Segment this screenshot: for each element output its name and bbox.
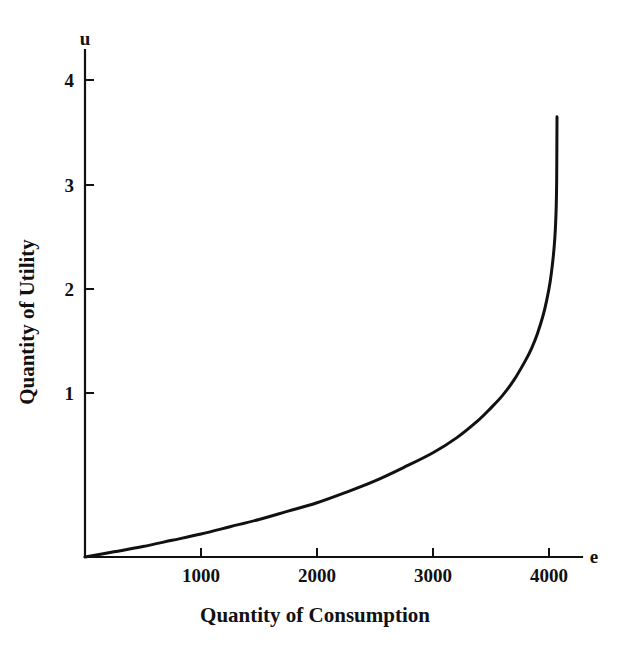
x-axis-ticks <box>201 548 549 557</box>
x-axis-tick-labels: 1000 2000 3000 4000 <box>182 565 568 586</box>
x-tick-label-4000: 4000 <box>530 565 568 586</box>
y-axis-ticks <box>85 80 94 393</box>
y-tick-label-2: 2 <box>65 279 75 300</box>
y-axis-variable-label: u <box>80 28 91 49</box>
y-tick-label-1: 1 <box>65 383 75 404</box>
x-axis-variable-label: e <box>590 546 598 567</box>
x-axis-title: Quantity of Consumption <box>200 603 430 627</box>
y-axis-tick-labels: 4 3 2 1 <box>65 70 75 404</box>
x-tick-label-1000: 1000 <box>182 565 220 586</box>
chart-canvas: 4 3 2 1 1000 2000 3000 4000 u e Quantity… <box>0 0 619 651</box>
y-tick-label-3: 3 <box>65 175 75 196</box>
y-axis-title: Quantity of Utility <box>15 239 39 405</box>
y-tick-label-4: 4 <box>65 70 75 91</box>
utility-curve <box>85 117 557 557</box>
x-tick-label-3000: 3000 <box>414 565 452 586</box>
x-tick-label-2000: 2000 <box>298 565 336 586</box>
utility-consumption-figure: 4 3 2 1 1000 2000 3000 4000 u e Quantity… <box>0 0 619 651</box>
